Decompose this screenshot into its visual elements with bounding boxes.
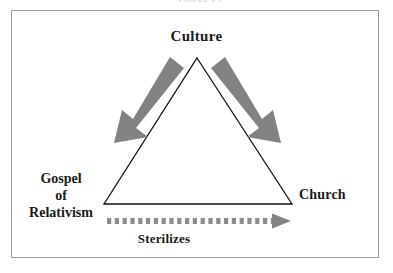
label-gospel-line-3: Relativism [18, 204, 104, 221]
label-sterilizes: Sterilizes [104, 231, 224, 247]
label-gospel-of-relativism: Gospel of Relativism [18, 170, 104, 221]
label-gospel-line-2: of [18, 187, 104, 204]
figure-root: FIGURE 4.1 Culture Gospel of Relativism … [0, 0, 393, 273]
label-church: Church [299, 187, 346, 203]
figure-caption-remnant: FIGURE 4.1 [155, 0, 245, 4]
label-gospel-line-1: Gospel [18, 170, 104, 187]
label-culture: Culture [0, 28, 393, 45]
